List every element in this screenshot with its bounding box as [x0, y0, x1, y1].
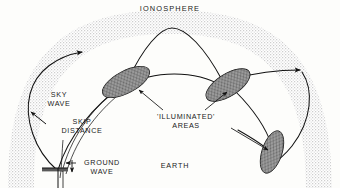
- ground-wave-path: [60, 140, 63, 178]
- label-earth: EARTH: [153, 161, 197, 170]
- label-ground-wave: GROUND WAVE: [77, 158, 127, 176]
- label-skip-distance: SKIP DISTANCE: [55, 117, 109, 135]
- illuminated-area-right: [201, 62, 255, 107]
- label-illuminated-areas: 'ILLUMINATED' AREAS: [143, 112, 229, 130]
- label-ionosphere: IONOSPHERE: [114, 4, 226, 13]
- transmitter-ground: [42, 168, 68, 188]
- radio-propagation-figure: IONOSPHERE SKY WAVE SKIP DISTANCE GROUND…: [0, 0, 340, 188]
- sky-wave-path-descending-right: [236, 92, 272, 146]
- label-illuminated-line2: AREAS: [143, 121, 229, 130]
- illuminated-area-lower-right: [256, 128, 289, 176]
- label-sky-wave: SKY WAVE: [38, 90, 80, 108]
- label-ground-wave-line2: WAVE: [77, 167, 127, 176]
- label-ground-wave-line1: GROUND: [77, 158, 127, 167]
- label-sky-wave-line1: SKY: [38, 90, 80, 99]
- sky-wave-path-lower-left-return: [176, 146, 262, 152]
- label-skip-distance-line1: SKIP: [55, 117, 109, 126]
- illuminated-area-left: [98, 60, 154, 104]
- label-skip-distance-line2: DISTANCE: [55, 126, 109, 135]
- label-sky-wave-line2: WAVE: [38, 99, 80, 108]
- label-illuminated-line1: 'ILLUMINATED': [143, 112, 229, 121]
